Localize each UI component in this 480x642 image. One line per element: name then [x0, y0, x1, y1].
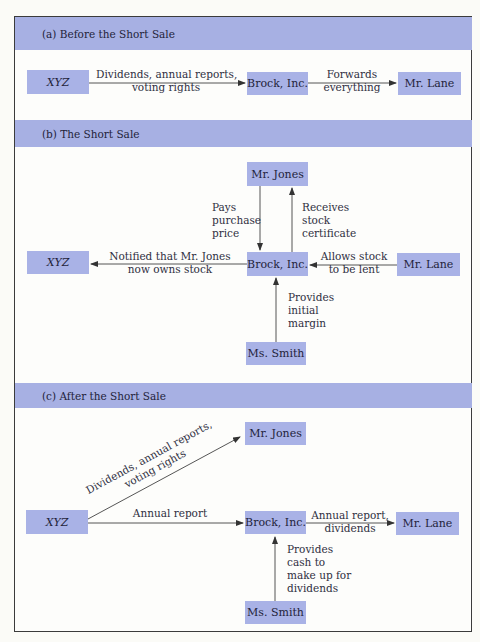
diagram-frame — [14, 16, 472, 632]
node-a-lane: Mr. Lane — [398, 72, 461, 95]
node-label: Ms. Smith — [247, 606, 304, 619]
label-line: Notified that Mr. Jones — [100, 250, 240, 263]
edge-a-brock-lane-label: Forwards everything — [318, 68, 386, 94]
edge-b-smith-brock-label: Provides initial margin — [288, 291, 334, 330]
node-c-jones: Mr. Jones — [245, 422, 306, 445]
section-a-header: (a) Before the Short Sale — [15, 17, 472, 50]
label-line: Dividends, annual reports, — [96, 68, 236, 81]
section-c-header: (c) After the Short Sale — [15, 383, 472, 408]
label-line: stock — [302, 214, 356, 227]
label-line: margin — [288, 317, 334, 330]
label-line: initial — [288, 304, 334, 317]
label-line: Annual report, — [310, 509, 390, 522]
node-c-lane: Mr. Lane — [396, 512, 459, 535]
node-label: Mr. Lane — [404, 258, 454, 271]
label-line: Allows stock — [318, 250, 390, 263]
node-a-brock: Brock, Inc. — [247, 72, 308, 95]
edge-a-xyz-brock-label: Dividends, annual reports, voting rights — [96, 68, 236, 94]
edge-b-lane-brock-label: Allows stock to be lent — [318, 250, 390, 276]
node-b-smith: Ms. Smith — [246, 342, 306, 365]
edge-c-xyz-brock-label: Annual report — [110, 507, 230, 520]
label-line: dividends — [310, 522, 390, 535]
edge-b-brock-jones-label: Receives stock certificate — [302, 201, 356, 240]
label-line: everything — [318, 81, 386, 94]
node-label: Brock, Inc. — [247, 258, 308, 271]
label-line: Receives — [302, 201, 356, 214]
label-line: price — [212, 227, 261, 240]
label-line: Forwards — [318, 68, 386, 81]
edge-b-brock-xyz-label: Notified that Mr. Jones now owns stock — [100, 250, 240, 276]
label-line: purchase — [212, 214, 261, 227]
node-b-xyz: XYZ — [27, 251, 89, 274]
label-line: certificate — [302, 227, 356, 240]
section-b-title: (b) The Short Sale — [42, 128, 139, 140]
label-line: voting rights — [96, 81, 236, 94]
node-label: XYZ — [47, 76, 70, 89]
node-b-lane: Mr. Lane — [397, 253, 460, 276]
label-line: to be lent — [318, 263, 390, 276]
label-line: make up for — [287, 569, 351, 582]
node-b-brock: Brock, Inc. — [247, 252, 308, 276]
section-a-title: (a) Before the Short Sale — [42, 28, 175, 40]
node-label: Brock, Inc. — [247, 77, 308, 90]
label-line: Pays — [212, 201, 261, 214]
label-line: Provides — [287, 543, 351, 556]
node-label: Mr. Jones — [249, 427, 302, 440]
node-a-xyz: XYZ — [27, 70, 89, 94]
section-b-header: (b) The Short Sale — [15, 120, 472, 147]
label-line: cash to — [287, 556, 351, 569]
node-label: Mr. Lane — [403, 517, 453, 530]
section-c-title: (c) After the Short Sale — [42, 390, 166, 402]
node-label: Mr. Jones — [251, 168, 304, 181]
node-label: Brock, Inc. — [245, 516, 306, 529]
node-label: Mr. Lane — [405, 77, 455, 90]
node-label: XYZ — [46, 516, 69, 529]
node-b-jones: Mr. Jones — [247, 162, 308, 186]
node-label: Ms. Smith — [248, 347, 305, 360]
label-line: Provides — [288, 291, 334, 304]
node-c-brock: Brock, Inc. — [245, 511, 306, 534]
label-line: Annual report — [110, 507, 230, 520]
label-line: now owns stock — [100, 263, 240, 276]
edge-b-jones-brock-label: Pays purchase price — [212, 201, 261, 240]
node-c-smith: Ms. Smith — [245, 601, 306, 624]
edge-c-brock-lane-label: Annual report, dividends — [310, 509, 390, 535]
label-line: dividends — [287, 582, 351, 595]
edge-c-smith-brock-label: Provides cash to make up for dividends — [287, 543, 351, 595]
node-label: XYZ — [47, 256, 70, 269]
